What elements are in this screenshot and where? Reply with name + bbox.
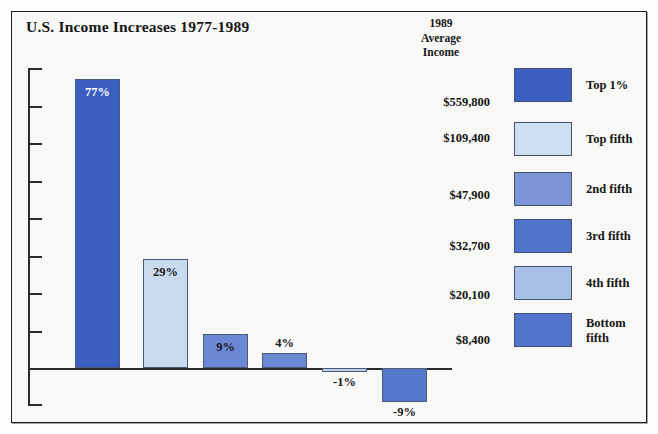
legend-swatch-5[interactable] xyxy=(514,266,572,300)
legend-label-6: Bottom fifth xyxy=(586,316,626,345)
y-axis-spine xyxy=(28,68,30,406)
chart-screenshot: U.S. Income Increases 1977-1989 1989 Ave… xyxy=(0,0,658,434)
legend-swatch-2[interactable] xyxy=(514,122,572,156)
income-value-6: $8,400 xyxy=(378,333,490,348)
bar-value-label: 4% xyxy=(262,336,307,351)
legend-swatch-4[interactable] xyxy=(514,219,572,253)
y-axis-tick xyxy=(28,218,42,220)
legend-label-1: Top 1% xyxy=(586,78,628,93)
bar-5[interactable] xyxy=(322,368,367,372)
legend-label-2: Top fifth xyxy=(586,132,632,147)
legend-label-5: 4th fifth xyxy=(586,276,629,291)
income-value-3: $47,900 xyxy=(378,188,490,203)
y-axis-tick xyxy=(28,293,42,295)
y-axis-tick xyxy=(28,143,42,145)
income-value-2: $109,400 xyxy=(378,131,490,146)
bar-value-label: -9% xyxy=(382,405,427,420)
income-value-5: $20,100 xyxy=(378,288,490,303)
legend-label-4: 3rd fifth xyxy=(586,229,631,244)
y-axis-tick xyxy=(28,256,42,258)
bar-value-label: 77% xyxy=(75,85,120,100)
y-axis-tick xyxy=(28,106,42,108)
y-axis-tick xyxy=(28,181,42,183)
y-axis-tick xyxy=(28,68,42,70)
bar-4[interactable] xyxy=(262,353,307,368)
plot-area: 77%29%9%4%-1%-9%$559,800Top 1%$109,400To… xyxy=(0,0,658,434)
y-axis-tick xyxy=(28,404,42,406)
bar-6[interactable] xyxy=(382,368,427,402)
legend-swatch-3[interactable] xyxy=(514,172,572,206)
legend-swatch-6[interactable] xyxy=(514,313,572,347)
legend-swatch-1[interactable] xyxy=(514,68,572,102)
legend-label-3: 2nd fifth xyxy=(586,182,632,197)
bar-1[interactable] xyxy=(75,79,120,368)
income-value-4: $32,700 xyxy=(378,239,490,254)
y-axis-tick xyxy=(28,331,42,333)
bar-value-label: -1% xyxy=(322,375,367,390)
bar-value-label: 29% xyxy=(143,265,188,280)
bar-value-label: 9% xyxy=(203,340,248,355)
income-value-1: $559,800 xyxy=(378,95,490,110)
